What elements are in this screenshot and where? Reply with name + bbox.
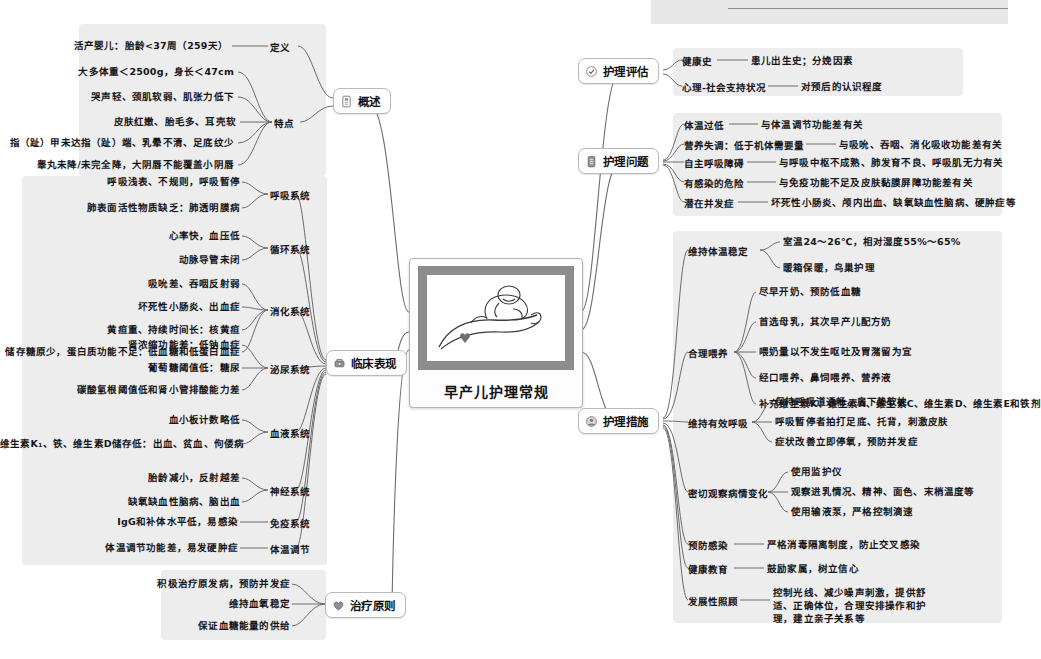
leaf-cs-1-1: 首选母乳，其次早产儿配方奶 xyxy=(759,316,892,328)
sub-label-dingyi: 定义 xyxy=(270,40,290,54)
branch-node-zhiliao[interactable]: 治疗原则 xyxy=(325,592,406,618)
sub-label-miniao: 泌尿系统 xyxy=(270,362,310,376)
sub-label-yufangganran: 预防感染 xyxy=(688,538,728,552)
leaf-lc-3-1: 葡萄糖阈值低：糖尿 xyxy=(0,362,240,374)
leaf-cs-3-0: 使用监护仪 xyxy=(791,466,842,478)
leaf-lc-7-0: 体温调节功能差，易发硬肿症 xyxy=(0,542,238,554)
leaf-lc-2-1: 坏死性小肠炎、出血症 xyxy=(0,301,240,313)
stethoscope-icon xyxy=(333,357,346,370)
baby-in-hand-illustration xyxy=(427,275,565,361)
leaf-gaishu-1-0: 大多体重＜2500g，身长＜47cm xyxy=(0,66,234,78)
sub-label-tiwenguodi: 体温过低 xyxy=(684,118,724,132)
heart-icon xyxy=(332,599,345,612)
leaf-gaishu-0-0: 活产婴儿：胎龄<37周（259天） xyxy=(0,40,228,52)
leaf-cs-1-3: 经口喂养、鼻饲喂养、营养液 xyxy=(759,372,892,384)
clipboard-icon xyxy=(585,155,598,168)
central-image xyxy=(427,275,565,361)
branch-label: 护理评估 xyxy=(603,63,649,79)
sub-label-mianyi: 免疫系统 xyxy=(270,516,310,530)
leaf-lc-5-0: 胎龄减小，反射越差 xyxy=(0,472,240,484)
leaf-lc-1-0: 心率快，血压低 xyxy=(0,230,240,242)
branch-label: 护理措施 xyxy=(603,413,649,429)
leaf-lc-5-1: 缺氧缺血性脑病、脑出血 xyxy=(0,496,240,508)
sub-label-tiwen: 体温调节 xyxy=(270,542,310,556)
leaf-gaishu-1-4: 睾丸未降/未完全降，大阴唇不能覆盖小阴唇 xyxy=(0,159,234,171)
sub-label-weichititwen: 维持体温稳定 xyxy=(688,244,748,258)
leaf-lc-1-1: 动脉导管未闭 xyxy=(0,254,240,266)
leaf-cs-2-2: 症状改善立即停氧，预防并发症 xyxy=(775,436,918,448)
leaf-pg-1-0: 对预后的认识程度 xyxy=(801,81,883,93)
leaf-lc-2-0: 吸吮差、吞咽反射弱 xyxy=(0,278,240,290)
sub-label-huxi: 呼吸系统 xyxy=(270,188,310,202)
sub-label-miqieguancha: 密切观察病情变化 xyxy=(688,486,768,500)
branch-node-gaishu[interactable]: 概述 xyxy=(333,88,391,114)
leaf-wt-4-0: 坏死性小肠炎、颅内出血、缺氧缺血性脑病、硬肿症等 xyxy=(771,197,1016,209)
sub-label-tedian: 特点 xyxy=(274,116,294,130)
leaf-lc-0-1: 肺表面活性物质缺乏：肺透明膜病 xyxy=(0,202,240,214)
leaf-cs-6-0: 控制光线、减少噪声刺激，提供舒适、正确体位，合理安排操作和护理，建立亲子关系等 xyxy=(773,586,941,625)
leaf-cs-3-2: 使用输液泵，严格控制滴速 xyxy=(791,506,913,518)
sub-label-youxiaohuxi: 维持有效呼吸 xyxy=(688,416,748,430)
leaf-lc-4-1: 维生素K₁、铁、维生素D储存低：出血、贫血、佝偻病 xyxy=(0,438,240,450)
sub-label-qianzai: 潜在并发症 xyxy=(684,196,734,210)
leaf-cs-1-0: 尽早开奶、预防低血糖 xyxy=(759,286,861,298)
leaf-wt-1-0: 与吸吮、吞咽、消化吸收功能差有关 xyxy=(839,139,1002,151)
leaf-zl-0: 积极治疗原发病，预防并发症 xyxy=(0,578,290,590)
top-artifact-line xyxy=(728,8,1008,9)
leaf-lc-2-2: 黄疸重、持续时间长：核黄疸 xyxy=(0,324,240,336)
sub-label-jiankangjiaoyu: 健康教育 xyxy=(688,562,728,576)
leaf-cs-1-2: 喂奶量以不发生呕吐及胃潴留为宜 xyxy=(759,346,912,358)
sub-label-shenjing: 神经系统 xyxy=(270,484,310,498)
central-image-frame xyxy=(418,266,574,370)
branch-label: 概述 xyxy=(358,93,381,109)
central-node-label: 早产儿护理常规 xyxy=(410,381,582,401)
leaf-pg-0-0: 患儿出生史；分娩因素 xyxy=(751,55,853,67)
central-node[interactable]: 早产儿护理常规 xyxy=(409,258,583,408)
branch-label: 临床表现 xyxy=(351,355,397,371)
leaf-lc-3-0: 肾浓缩功能差：低钠血症 xyxy=(0,339,240,351)
leaf-cs-5-0: 鼓励家属，树立信心 xyxy=(767,563,859,575)
leaf-lc-0-0: 呼吸浅表、不规则，呼吸暂停 xyxy=(0,176,240,188)
leaf-gaishu-1-3: 指（趾）甲未达指（趾）端、乳晕不清、足底纹少 xyxy=(0,137,234,149)
leaf-lc-4-0: 血小板计数略低 xyxy=(0,414,240,426)
sub-label-fazhanxing: 发展性照顾 xyxy=(688,594,738,608)
leaf-wt-3-0: 与免疫功能不足及皮肤黏膜屏障功能差有关 xyxy=(779,177,973,189)
branch-node-cuoshi[interactable]: 护理措施 xyxy=(578,408,659,434)
leaf-cs-0-1: 暖箱保暖，鸟巢护理 xyxy=(783,262,875,274)
top-artifact-strip xyxy=(651,0,1008,24)
leaf-gaishu-1-2: 皮肤红嫩、胎毛多、耳壳软 xyxy=(0,116,236,128)
branch-node-linchuang[interactable]: 临床表现 xyxy=(326,350,407,376)
sub-label-yingyang: 营养失调：低于机体需要量 xyxy=(684,138,804,152)
sub-label-xunhuan: 循环系统 xyxy=(270,242,310,256)
leaf-cs-3-1: 观察进乳情况、精神、面色、末梢温度等 xyxy=(791,486,975,498)
document-icon xyxy=(340,95,353,108)
sub-label-xiaohua: 消化系统 xyxy=(270,304,310,318)
leaf-lc-6-0: IgG和补体水平低，易感染 xyxy=(0,516,238,528)
sub-label-heliweiyang: 合理喂养 xyxy=(688,346,728,360)
leaf-gaishu-1-1: 哭声轻、颈肌软弱、肌张力低下 xyxy=(0,91,234,103)
branch-label: 治疗原则 xyxy=(350,597,396,613)
sub-label-jiankangshi: 健康史 xyxy=(682,54,712,68)
leaf-wt-0-0: 与体温调节功能差有关 xyxy=(761,119,863,131)
branch-label: 护理问题 xyxy=(603,153,649,169)
leaf-lc-3-2: 碳酸氢根阈值低和肾小管排酸能力差 xyxy=(0,384,240,396)
branch-node-pinggu[interactable]: 护理评估 xyxy=(578,58,659,84)
leaf-wt-2-0: 与呼吸中枢不成熟、肺发育不良、呼吸肌无力有关 xyxy=(779,157,1003,169)
sub-label-xinli: 心理-社会支持状况 xyxy=(682,80,766,94)
leaf-zl-1: 维持血氧稳定 xyxy=(0,598,290,610)
branch-node-wenti[interactable]: 护理问题 xyxy=(578,148,659,174)
sub-label-xueye: 血液系统 xyxy=(270,426,310,440)
leaf-cs-2-0: 保持呼吸道通畅，肩下垫软枕 xyxy=(775,396,908,408)
check-circle-icon xyxy=(585,65,598,78)
leaf-zl-2: 保证血糖能量的供给 xyxy=(0,620,290,632)
nurse-icon xyxy=(585,415,598,428)
leaf-cs-4-0: 严格消毒隔离制度，防止交叉感染 xyxy=(767,539,920,551)
leaf-cs-0-0: 室温24～26℃，相对湿度55%～65% xyxy=(783,236,960,248)
sub-label-zizhuhuxi: 自主呼吸障碍 xyxy=(684,156,744,170)
leaf-cs-2-1: 呼吸暂停者拍打足底、托背，刺激皮肤 xyxy=(775,416,948,428)
sub-label-ganran: 有感染的危险 xyxy=(684,176,744,190)
